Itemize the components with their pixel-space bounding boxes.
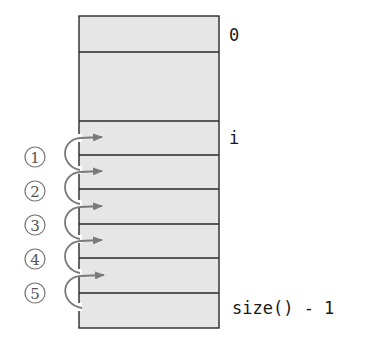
step-number: 4 [30, 251, 40, 269]
index-label-last: size() - 1 [232, 298, 334, 318]
index-label-i: i [229, 128, 239, 148]
step-marker-4: 4 [25, 249, 45, 269]
step-marker-2: 2 [25, 181, 45, 201]
index-label-zero: 0 [229, 25, 239, 45]
step-marker-3: 3 [25, 215, 45, 235]
step-marker-1: 1 [25, 147, 45, 167]
step-number: 5 [30, 285, 40, 303]
step-number: 3 [30, 217, 40, 235]
step-number: 1 [30, 149, 40, 167]
step-number: 2 [30, 183, 40, 201]
step-marker-5: 5 [25, 283, 45, 303]
array-diagram: 1 2 3 4 5 0 i size() - 1 [0, 0, 367, 352]
array-block [79, 16, 219, 328]
